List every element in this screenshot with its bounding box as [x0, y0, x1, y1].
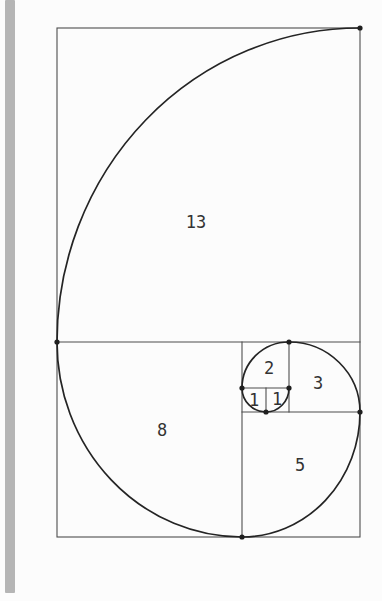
label-square-3: 3 — [313, 373, 323, 393]
anchor-dot-top-of-2-3 — [286, 339, 291, 344]
anchor-dot-bottom — [239, 534, 244, 539]
left-margin-bar — [5, 0, 15, 593]
label-square-8: 8 — [157, 420, 167, 440]
label-square-5: 5 — [295, 455, 305, 475]
label-square-13: 13 — [186, 212, 206, 232]
page: 13 8 5 3 2 1 1 — [0, 0, 382, 601]
label-square-2: 2 — [264, 358, 274, 378]
anchor-dot-spiral-end — [286, 385, 291, 390]
fibonacci-spiral-diagram: 13 8 5 3 2 1 1 — [0, 0, 382, 601]
anchor-dot-below-ones — [263, 409, 268, 414]
anchor-dot-left-of-ones — [239, 385, 244, 390]
label-square-1-left: 1 — [249, 390, 259, 410]
anchor-dot-left — [54, 339, 59, 344]
label-square-1-right: 1 — [272, 389, 282, 409]
anchor-dot-top-right — [357, 25, 362, 30]
anchor-dot-right — [357, 409, 362, 414]
